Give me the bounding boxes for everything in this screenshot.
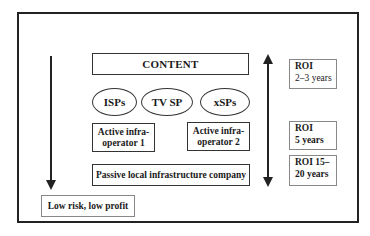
active-operator-1-box: Active infra- operator 1 <box>92 123 155 152</box>
isps-label: ISPs <box>104 96 125 108</box>
roi-2-line1: ROI <box>295 122 313 134</box>
active-operator-2-line2: operator 2 <box>197 137 239 148</box>
roi-2-line2: 5 years <box>295 134 324 146</box>
xsps-ellipse: xSPs <box>200 88 250 116</box>
active-operator-1-line2: operator 1 <box>102 138 144 149</box>
tv-sp-ellipse: TV SP <box>141 88 193 116</box>
roi-3-line2: 20 years <box>295 168 329 180</box>
roi-box-3: ROI 15– 20 years <box>289 155 337 186</box>
low-risk-box: Low risk, low profit <box>41 195 135 217</box>
passive-infrastructure-box: Passive local infrastructure company <box>92 164 250 186</box>
xsps-label: xSPs <box>214 96 237 108</box>
roi-3-line1: ROI 15– <box>295 156 330 168</box>
isps-ellipse: ISPs <box>92 88 137 116</box>
active-operator-2-line1: Active infra- <box>193 126 244 137</box>
low-risk-label: Low risk, low profit <box>48 201 129 212</box>
roi-1-line2: 2–3 years <box>295 72 332 84</box>
roi-box-2: ROI 5 years <box>289 121 337 150</box>
content-box: CONTENT <box>92 53 249 75</box>
content-label: CONTENT <box>142 58 199 70</box>
tv-sp-label: TV SP <box>152 96 183 108</box>
active-operator-2-box: Active infra- operator 2 <box>187 122 250 151</box>
bidirectional-arrow-icon <box>263 54 273 187</box>
roi-box-1: ROI 2–3 years <box>289 59 337 89</box>
active-operator-1-line1: Active infra- <box>98 127 149 138</box>
passive-infrastructure-label: Passive local infrastructure company <box>96 170 246 181</box>
roi-1-line1: ROI <box>295 60 313 72</box>
down-arrow-icon <box>46 56 56 190</box>
